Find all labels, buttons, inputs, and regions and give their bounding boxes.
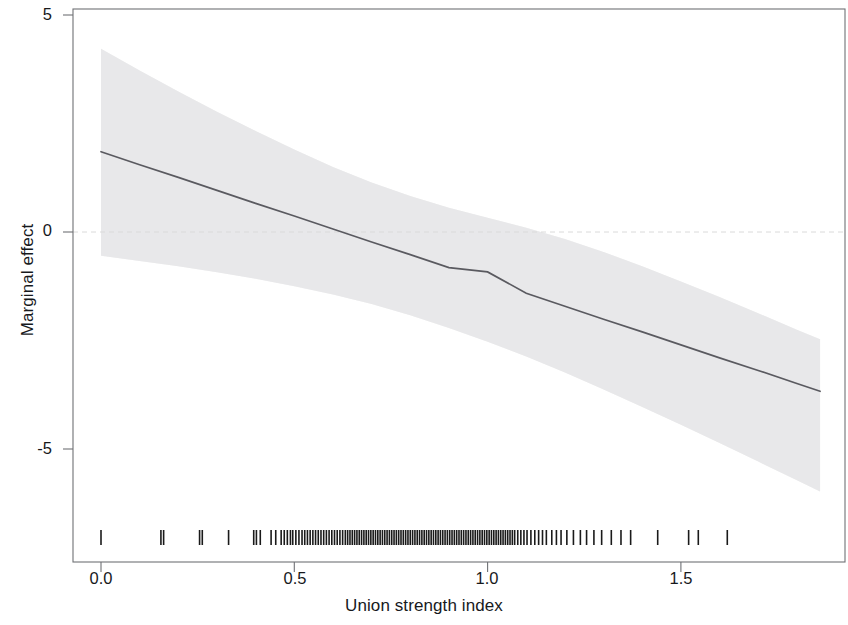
confidence-interval-band-texture [101,49,820,492]
marginal-effects-figure: 5 0 -5 0.0 0.5 1.0 1.5 Union strength in… [0,0,848,625]
x-tick-label-1-0: 1.0 [452,569,522,588]
y-axis-title: Marginal effect [18,190,38,370]
x-tick-label-0-5: 0.5 [260,569,330,588]
x-tick-label-0-0: 0.0 [66,569,136,588]
x-axis-title: Union strength index [0,596,848,616]
rug-marks-group [101,530,727,545]
x-axis-tick-marks [101,562,681,572]
plot-canvas [0,0,848,625]
x-tick-label-1-5: 1.5 [646,569,716,588]
y-tick-label-neg5: -5 [6,439,52,458]
y-axis-tick-marks [63,15,73,449]
y-tick-label-5: 5 [6,5,52,24]
confidence-band-group [101,49,820,492]
